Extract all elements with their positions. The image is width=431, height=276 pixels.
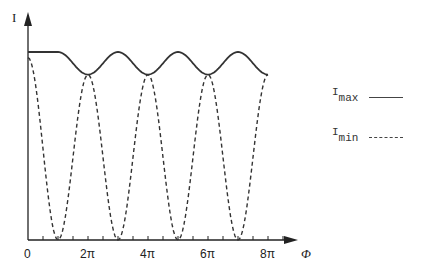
chart-canvas: I Φ 0 2π 4π 6π 8π <box>0 0 431 276</box>
y-axis-arrow-icon <box>24 12 32 26</box>
legend-imin-sub: min <box>339 132 359 144</box>
tick-label-6pi: 6π <box>200 247 215 261</box>
series-imax-line <box>28 52 268 75</box>
series-imin-line <box>28 58 268 240</box>
legend-imin-main: I <box>332 126 339 138</box>
tick-label-8pi: 8π <box>260 247 275 261</box>
tick-label-0: 0 <box>24 247 31 261</box>
legend-dashed-line-icon <box>369 137 403 138</box>
x-axis-label: Φ <box>301 246 311 261</box>
tick-label-2pi: 2π <box>80 247 95 261</box>
legend-solid-line-icon <box>369 97 403 98</box>
x-tick-labels: 0 2π 4π 6π 8π <box>24 247 275 261</box>
legend-imax-sub: max <box>339 92 359 104</box>
legend-item-imin: Imin <box>332 126 403 138</box>
y-axis-label: I <box>12 10 16 25</box>
legend-imax-main: I <box>332 86 339 98</box>
x-axis-arrow-icon <box>284 236 298 244</box>
legend-item-imax: Imax <box>332 86 403 98</box>
tick-label-4pi: 4π <box>140 247 155 261</box>
